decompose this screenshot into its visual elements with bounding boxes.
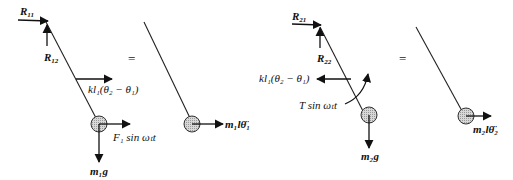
equals-sign-1: = xyxy=(128,51,135,66)
inertia-label-2: m₂lθ̈₂ xyxy=(473,123,498,135)
pendulum1-kinetic-rod xyxy=(144,22,190,118)
spring-force-label-2: kl₁(θ₂ − θ₁) xyxy=(259,72,310,85)
panel1-free-body-diagram: R11 R12 kl₁(θ₂ − θ₁) F₁ sin ωₜt m₁g xyxy=(18,5,157,177)
panel2-kinetic-diagram: m₂lθ̈₂ xyxy=(416,27,498,135)
pendulum-fbd-diagram: R11 R12 kl₁(θ₂ − θ₁) F₁ sin ωₜt m₁g = m₁… xyxy=(0,0,513,180)
panel1-kinetic-diagram: m₁lθ̈₁ xyxy=(144,22,250,132)
r12-label: R12 xyxy=(43,51,59,65)
r21-force-arrow xyxy=(292,24,321,25)
weight-label-2: m₂g xyxy=(361,150,379,162)
panel2-free-body-diagram: R21 R22 kl₁(θ₂ − θ₁) T sin ωₜt m₂g xyxy=(259,10,379,162)
r21-label: R21 xyxy=(291,10,306,24)
r11-force-arrow xyxy=(18,20,48,21)
torque-label: T sin ωₜt xyxy=(299,99,338,111)
pendulum2-kinetic-rod xyxy=(416,27,462,111)
excitation-force-label: F₁ sin ωₜt xyxy=(112,131,157,143)
spring-force-label-1: kl₁(θ₂ − θ₁) xyxy=(88,83,139,96)
inertia-label-1: m₁lθ̈₁ xyxy=(225,118,250,130)
weight-label-1: m₁g xyxy=(90,165,108,177)
pendulum1-rod xyxy=(46,22,96,118)
r11-label: R11 xyxy=(19,5,34,19)
r22-label: R22 xyxy=(316,52,332,66)
equals-sign-2: = xyxy=(399,51,406,66)
